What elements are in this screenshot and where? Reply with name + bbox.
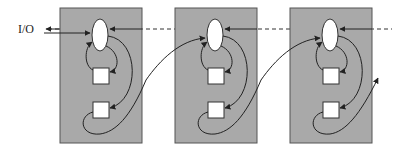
square-node [93,102,109,118]
ellipse-node [322,19,338,51]
ellipse-node [207,19,223,51]
diagram-canvas: I/O [0,0,404,151]
square-node [208,102,224,118]
square-node [323,102,339,118]
square-node [93,68,109,84]
square-node [208,68,224,84]
io-label: I/O [18,22,34,36]
ellipse-node [92,19,108,51]
square-node [323,68,339,84]
